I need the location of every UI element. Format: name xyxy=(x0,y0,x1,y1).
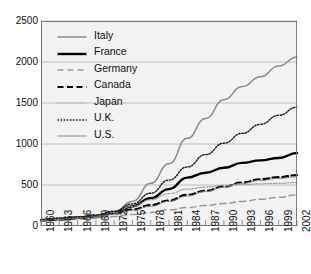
x-axis-tick-label: 1981 xyxy=(173,210,184,232)
x-axis-tick-label: 1963 xyxy=(63,210,74,232)
legend-item-france[interactable]: France xyxy=(57,44,147,61)
x-axis-tick-label: 1975 xyxy=(136,210,147,232)
legend-item-label: U.S. xyxy=(94,129,114,140)
x-axis-tick-label: 1987 xyxy=(210,210,221,232)
x-axis: 1960196319661969197219751978198119841987… xyxy=(0,0,311,274)
legend-item-label: Japan xyxy=(94,96,123,107)
x-axis-tick-label: 1972 xyxy=(118,210,129,232)
chart-legend: ItalyFranceGermanyCanadaJapanU.K.U.S. xyxy=(57,27,147,143)
legend-swatch-icon xyxy=(57,79,87,91)
line-chart: 25002000150010005000 1960196319661969197… xyxy=(0,0,311,274)
x-axis-tick-label: 1999 xyxy=(283,210,294,232)
x-axis-tick-label: 1960 xyxy=(45,210,56,232)
x-axis-tick-label: 2002 xyxy=(301,210,311,232)
legend-item-label: Italy xyxy=(94,30,113,41)
x-axis-tick-label: 1978 xyxy=(155,210,166,232)
legend-item-label: Canada xyxy=(94,79,131,90)
legend-item-italy[interactable]: Italy xyxy=(57,27,147,44)
legend-item-us[interactable]: U.S. xyxy=(57,126,147,143)
legend-item-uk[interactable]: U.K. xyxy=(57,110,147,127)
x-axis-tick-label: 1969 xyxy=(100,210,111,232)
x-axis-tick-label: 1990 xyxy=(228,210,239,232)
x-axis-tick-label: 1984 xyxy=(191,210,202,232)
legend-swatch-icon xyxy=(57,112,87,124)
legend-item-japan[interactable]: Japan xyxy=(57,93,147,110)
legend-swatch-icon xyxy=(57,29,87,41)
x-axis-tick-label: 1993 xyxy=(246,210,257,232)
x-axis-tick-label: 1996 xyxy=(264,210,275,232)
legend-item-canada[interactable]: Canada xyxy=(57,77,147,94)
legend-swatch-icon xyxy=(57,95,87,107)
x-axis-tick-label: 1966 xyxy=(82,210,93,232)
legend-swatch-icon xyxy=(57,128,87,140)
legend-swatch-icon xyxy=(57,62,87,74)
legend-item-label: France xyxy=(94,46,127,57)
legend-item-germany[interactable]: Germany xyxy=(57,60,147,77)
legend-item-label: U.K. xyxy=(94,112,114,123)
legend-swatch-icon xyxy=(57,46,87,58)
legend-item-label: Germany xyxy=(94,63,137,74)
